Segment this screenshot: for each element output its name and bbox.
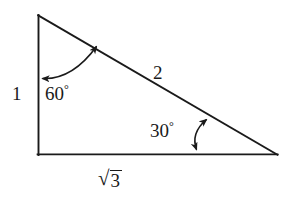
angle-label-60: 60° (45, 83, 69, 103)
angle-label-30: 30° (150, 120, 174, 140)
angle-label-30-value: 30 (150, 120, 169, 141)
angle-arc-60 (43, 47, 97, 79)
radicand-value: 3 (110, 170, 123, 190)
side-label-base: √3 (98, 168, 122, 190)
triangle-drawing (0, 0, 292, 197)
radical-expression: √3 (98, 168, 122, 190)
triangle-figure: 1 60° 2 30° √3 (0, 0, 292, 197)
side-label-hypotenuse: 2 (153, 63, 163, 82)
degree-symbol-icon: ° (64, 82, 69, 96)
angle-label-60-value: 60 (45, 83, 64, 104)
side-label-vertical: 1 (12, 84, 22, 103)
radical-sign-icon: √ (98, 168, 110, 189)
angle-arc-30 (195, 120, 207, 150)
degree-symbol-icon: ° (169, 119, 174, 133)
